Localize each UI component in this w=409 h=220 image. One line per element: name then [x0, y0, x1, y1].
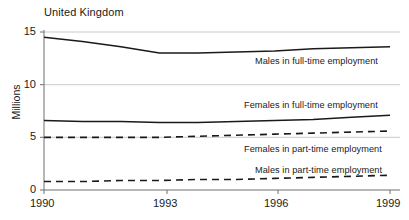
chart-container: United Kingdom Millions [0, 0, 409, 220]
x-tick-label-1996: 1996 [264, 197, 288, 209]
y-tick-marks [40, 32, 44, 190]
series-label-males-full-time: Males in full-time employment [255, 56, 378, 66]
series-label-females-full-time: Females in full-time employment [244, 100, 378, 110]
series-label-females-part-time: Females in part-time employment [244, 144, 382, 154]
y-tick-label-0: 0 [12, 183, 36, 195]
series-label-males-part-time: Males in part-time employment [255, 165, 382, 175]
y-tick-label-5: 5 [12, 130, 36, 142]
x-tick-marks [44, 190, 390, 194]
x-tick-label-1990: 1990 [30, 197, 54, 209]
series-line-males-part-time [44, 175, 390, 181]
series-line-females-full-time [44, 115, 390, 122]
series-line-males-full-time [44, 37, 390, 53]
y-tick-label-10: 10 [12, 78, 36, 90]
x-tick-label-1999: 1999 [376, 197, 400, 209]
y-tick-label-15: 15 [12, 25, 36, 37]
plot-area [0, 0, 409, 220]
series-line-females-part-time [44, 131, 390, 137]
x-tick-label-1993: 1993 [153, 197, 177, 209]
